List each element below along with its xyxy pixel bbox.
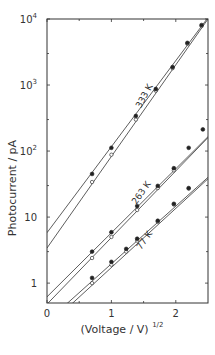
x-tick-label: 2 [173, 308, 179, 319]
series-label-333k: 333 K [134, 81, 156, 110]
data-point-filled [187, 146, 191, 150]
photocurrent-chart: 110102103104 012 333 K263 K77 K Photocur… [0, 0, 215, 355]
y-tick-label: 103 [20, 78, 37, 91]
data-point-filled [200, 23, 204, 27]
series-label-77k: 77 K [134, 228, 154, 251]
y-tick-label: 104 [20, 12, 38, 25]
data-point-filled [172, 202, 176, 206]
data-point-filled [172, 166, 176, 170]
data-point-open [90, 180, 93, 183]
x-axis-label: (Voltage / V) 1/2 [81, 321, 164, 336]
data-point-open [110, 235, 113, 238]
fit-line [47, 19, 208, 248]
data-point-filled [187, 186, 191, 190]
data-point-filled [110, 146, 114, 150]
series-label-263k: 263 K [130, 178, 154, 206]
data-point-filled [185, 41, 189, 45]
data-point-filled [134, 114, 138, 118]
y-axis-label: Photocurrent / pA [6, 139, 19, 236]
data-point-open [90, 281, 93, 284]
data-point-filled [110, 260, 114, 264]
data-point-filled [171, 65, 175, 69]
data-point-filled [201, 127, 205, 131]
series-labels: 333 K263 K77 K [130, 81, 156, 251]
x-tick-label: 0 [44, 308, 50, 319]
data-points [90, 23, 205, 285]
data-point-filled [90, 172, 94, 176]
data-point-filled [90, 276, 94, 280]
data-point-filled [156, 184, 160, 188]
data-point-filled [110, 230, 114, 234]
data-point-filled [124, 247, 128, 251]
fit-line [47, 138, 208, 305]
x-axis-label-main: (Voltage / V) [81, 323, 149, 336]
x-axis-ticks: 012 [44, 19, 179, 319]
data-point-open [90, 256, 93, 259]
y-tick-label: 102 [20, 144, 37, 157]
x-axis-label-exponent: 1/2 [152, 321, 163, 329]
y-tick-label: 10 [24, 212, 37, 223]
data-point-open [134, 118, 137, 121]
data-point-open [110, 153, 113, 156]
data-point-open [135, 208, 138, 211]
fit-lines [47, 18, 208, 305]
data-point-filled [90, 250, 94, 254]
data-point-filled [156, 219, 160, 223]
fit-line [47, 137, 208, 297]
y-tick-label: 1 [31, 278, 37, 289]
x-tick-label: 1 [108, 308, 114, 319]
data-point-filled [154, 87, 158, 91]
